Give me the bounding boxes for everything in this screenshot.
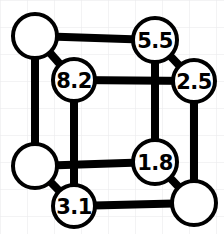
node-label: 5.5	[137, 29, 173, 53]
node-circle	[172, 181, 216, 225]
cube-graph: 5.51.88.22.53.1	[0, 0, 224, 234]
node-front-top-right[interactable]: 2.5	[173, 60, 215, 102]
node-front-bottom-left[interactable]: 3.1	[53, 185, 95, 227]
node-label: 3.1	[56, 195, 92, 219]
node-back-bottom-right[interactable]: 1.8	[133, 140, 177, 184]
diagram-canvas: 5.51.88.22.53.1	[0, 0, 224, 234]
node-circle	[13, 14, 57, 58]
node-front-bottom-right[interactable]	[172, 181, 216, 225]
node-back-top-right[interactable]: 5.5	[133, 18, 177, 62]
node-back-top-left[interactable]	[13, 14, 57, 58]
node-label: 8.2	[56, 69, 92, 93]
node-label: 2.5	[176, 70, 212, 94]
nodes-group: 5.51.88.22.53.1	[13, 14, 216, 227]
node-circle	[13, 144, 57, 188]
node-label: 1.8	[137, 151, 173, 175]
node-back-bottom-left[interactable]	[13, 144, 57, 188]
node-front-top-left[interactable]: 8.2	[53, 59, 95, 101]
